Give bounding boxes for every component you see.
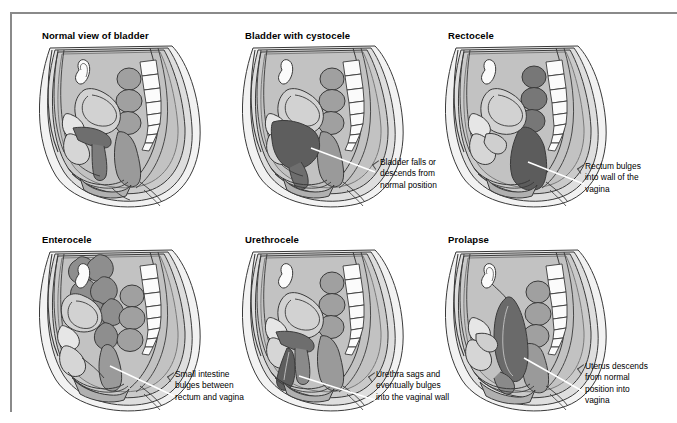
panel-title: Enterocele <box>42 234 92 245</box>
panel-title: Normal view of bladder <box>42 30 149 41</box>
panel-title: Bladder with cystocele <box>245 30 350 41</box>
panel-urethrocele: Urethrocele <box>217 222 442 423</box>
panel-title: Prolapse <box>448 234 489 245</box>
pelvis-illustration-normal <box>22 44 222 216</box>
panel-title: Rectocele <box>448 30 494 41</box>
panel-caption: Rectum bulges into wall of the vagina <box>585 161 673 195</box>
frame-top-border <box>10 12 677 14</box>
panel-enterocele: Enterocele <box>14 222 239 423</box>
panel-bladder-with-cystocele: Bladder with cystocele <box>217 18 442 223</box>
panel-title: Urethrocele <box>245 234 299 245</box>
panel-normal-view-of-bladder: Normal view of bladder <box>14 18 239 223</box>
panel-caption: Uterus descends from normal position int… <box>585 361 675 406</box>
frame-left-border <box>10 12 12 412</box>
panel-rectocele: Rectocele <box>420 18 645 223</box>
panel-prolapse: Prolapse <box>420 222 645 423</box>
